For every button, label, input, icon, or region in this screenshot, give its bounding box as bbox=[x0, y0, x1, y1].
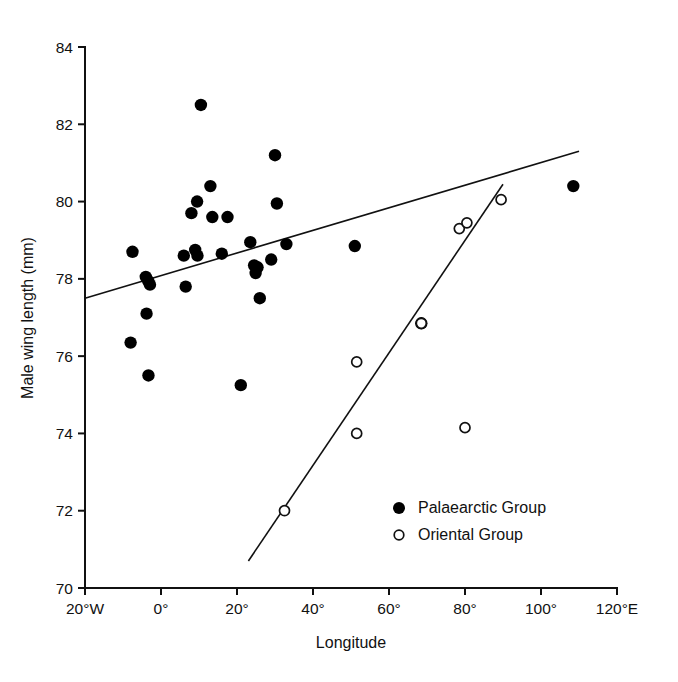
data-point-palaearctic bbox=[567, 180, 579, 192]
data-point-oriental bbox=[416, 318, 426, 328]
x-tick-label: 80° bbox=[453, 600, 476, 617]
data-point-palaearctic bbox=[206, 211, 218, 223]
y-tick-label: 80 bbox=[56, 193, 74, 210]
x-axis-ticks bbox=[85, 588, 617, 595]
data-point-palaearctic bbox=[126, 246, 138, 258]
x-tick-label: 0° bbox=[154, 600, 169, 617]
data-point-palaearctic bbox=[349, 240, 361, 252]
data-point-palaearctic bbox=[280, 238, 292, 250]
series-palaearctic-group bbox=[124, 99, 579, 392]
y-tick-label: 78 bbox=[56, 270, 73, 287]
y-axis-ticks bbox=[78, 47, 85, 588]
data-point-palaearctic bbox=[142, 369, 154, 381]
legend-marker-open-circle-icon bbox=[394, 530, 404, 540]
data-point-oriental bbox=[460, 423, 470, 433]
data-point-palaearctic bbox=[221, 211, 233, 223]
x-tick-label: 40° bbox=[301, 600, 324, 617]
data-point-palaearctic bbox=[191, 195, 203, 207]
data-point-palaearctic bbox=[216, 248, 228, 260]
legend-label: Oriental Group bbox=[418, 526, 523, 543]
x-axis-title: Longitude bbox=[316, 634, 386, 651]
legend: Palaearctic GroupOriental Group bbox=[393, 499, 546, 543]
data-point-palaearctic bbox=[195, 99, 207, 111]
data-point-palaearctic bbox=[191, 249, 203, 261]
data-point-oriental bbox=[280, 506, 290, 516]
y-axis-title: Male wing length (mm) bbox=[19, 237, 36, 399]
legend-label: Palaearctic Group bbox=[418, 499, 546, 516]
x-tick-label: 20° bbox=[225, 600, 248, 617]
data-point-palaearctic bbox=[140, 307, 152, 319]
data-point-palaearctic bbox=[254, 292, 266, 304]
data-point-palaearctic bbox=[204, 180, 216, 192]
plot-canvas: 7072747678808284 20°W0°20°40°60°80°100°1… bbox=[0, 0, 678, 682]
regression-line bbox=[85, 151, 579, 298]
y-tick-label: 84 bbox=[56, 39, 74, 56]
x-axis-tick-labels: 20°W0°20°40°60°80°100°120°E bbox=[66, 600, 638, 617]
y-tick-label: 72 bbox=[56, 502, 73, 519]
y-axis-tick-labels: 7072747678808284 bbox=[56, 39, 74, 597]
data-point-oriental bbox=[352, 357, 362, 367]
series-oriental-group bbox=[280, 195, 507, 516]
x-tick-label: 60° bbox=[377, 600, 400, 617]
data-point-palaearctic bbox=[178, 249, 190, 261]
data-point-palaearctic bbox=[144, 278, 156, 290]
data-point-palaearctic bbox=[244, 236, 256, 248]
y-tick-label: 70 bbox=[56, 580, 74, 597]
x-tick-label: 100° bbox=[525, 600, 557, 617]
data-point-oriental bbox=[462, 218, 472, 228]
data-point-palaearctic bbox=[180, 280, 192, 292]
y-tick-label: 76 bbox=[56, 348, 73, 365]
data-point-oriental bbox=[352, 428, 362, 438]
x-tick-label: 20°W bbox=[66, 600, 104, 617]
data-point-palaearctic bbox=[235, 379, 247, 391]
data-point-palaearctic bbox=[251, 261, 263, 273]
data-point-palaearctic bbox=[265, 253, 277, 265]
data-point-palaearctic bbox=[185, 207, 197, 219]
data-point-palaearctic bbox=[124, 336, 136, 348]
data-point-oriental bbox=[496, 195, 506, 205]
legend-marker-filled-circle-icon bbox=[393, 502, 405, 514]
y-tick-label: 74 bbox=[56, 425, 74, 442]
data-point-palaearctic bbox=[269, 149, 281, 161]
y-tick-label: 82 bbox=[56, 116, 73, 133]
scatter-plot-figure: 7072747678808284 20°W0°20°40°60°80°100°1… bbox=[0, 0, 678, 682]
x-tick-label: 120°E bbox=[596, 600, 638, 617]
data-point-palaearctic bbox=[271, 197, 283, 209]
